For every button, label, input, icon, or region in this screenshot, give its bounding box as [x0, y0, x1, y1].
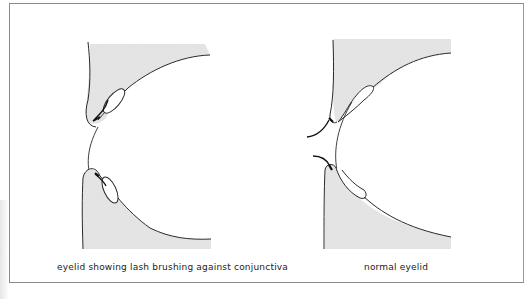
caption-normal-eyelid: normal eyelid — [364, 262, 428, 272]
left-diagram — [82, 42, 211, 249]
caption-abnormal-eyelid: eyelid showing lash brushing against con… — [57, 262, 288, 272]
eyelid-diagrams — [0, 0, 532, 299]
right-diagram — [307, 39, 451, 249]
